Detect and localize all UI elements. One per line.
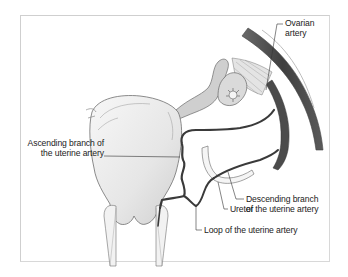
label-ascending-branch-line1: Ascending branch of xyxy=(28,138,104,148)
label-loop: Loop of the uterine artery xyxy=(204,225,297,235)
label-ovarian-artery-line1: Ovarian xyxy=(285,18,314,28)
label-ureter-text: Ureter xyxy=(230,204,253,214)
label-ovarian-artery: Ovarian artery xyxy=(285,18,314,38)
label-ascending-branch: Ascending branch of the uterine artery xyxy=(28,138,104,158)
label-loop-text: Loop of the uterine artery xyxy=(204,225,297,235)
label-ovarian-artery-line2: artery xyxy=(285,28,314,38)
label-descending-branch: Descending branch of the uterine artery xyxy=(246,194,318,214)
label-descending-branch-line1: Descending branch xyxy=(246,194,318,204)
uterus xyxy=(90,96,182,225)
label-ascending-branch-line2: the uterine artery xyxy=(28,148,104,158)
label-ureter: Ureter xyxy=(230,204,253,214)
label-descending-branch-line2: of the uterine artery xyxy=(246,204,318,214)
iliac-vessels xyxy=(242,28,323,170)
